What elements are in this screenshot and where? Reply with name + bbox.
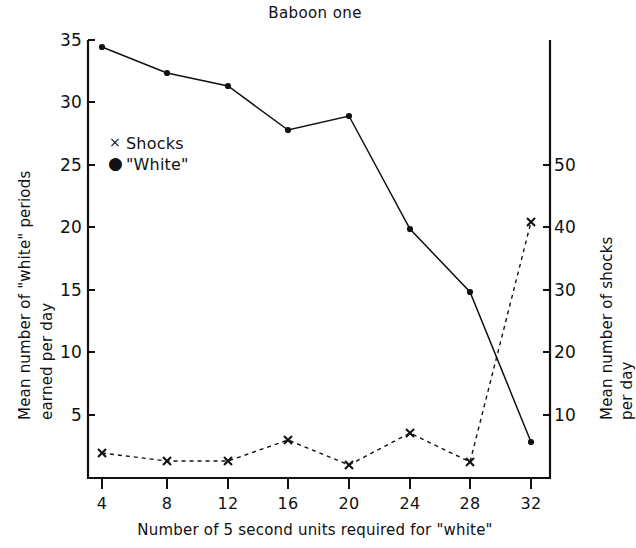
legend-label: "White" [126,155,189,174]
axis-frame [88,40,550,478]
data-point [99,44,105,50]
series-shocks-line [102,222,531,465]
x-tick-label: 20 [329,496,369,512]
data-point [467,289,473,295]
data-point [527,218,535,226]
y-tick-label: 30 [42,94,82,111]
x-tick-label: 4 [82,496,122,512]
legend-label: Shocks [126,134,184,153]
data-point [345,461,353,469]
y-tick-label: 35 [42,32,82,49]
y2-tick-label: 40 [554,219,594,236]
y-tick-label: 25 [42,157,82,174]
series-shocks-markers [98,218,535,469]
y-tick-label: 20 [42,219,82,236]
y2-tick-label: 30 [554,282,594,299]
x-axis-ticks [102,478,531,489]
data-point [284,436,292,444]
x-tick-label: 32 [511,496,551,512]
x-marker-icon: × [108,134,122,150]
y-axis-title-line1: Mean number of "white" periods [18,171,33,420]
y2-axis-title-line2: per day [620,361,635,420]
data-point [225,83,231,89]
x-tick-label: 24 [390,496,430,512]
data-point [528,439,534,445]
circle-marker-icon: ● [108,155,122,172]
y2-tick-label: 20 [554,344,594,361]
x-tick-label: 12 [208,496,248,512]
y-tick-label: 15 [42,282,82,299]
data-point [164,70,170,76]
x-axis-title: Number of 5 second units required for "w… [0,523,630,538]
x-tick-label: 8 [147,496,187,512]
y2-axis-title-line1: Mean number of shocks [600,236,615,420]
y2-tick-label: 10 [554,407,594,424]
y-axis-title-line2: earned per day [40,303,55,420]
data-point [163,457,171,465]
series-shocks [98,218,535,469]
chart-legend: × Shocks ● "White" [108,134,278,176]
series-white-markers [99,44,534,445]
data-point [285,127,291,133]
y2-tick-label: 50 [554,157,594,174]
data-point [407,226,413,232]
series-white [99,44,534,445]
x-tick-label: 28 [450,496,490,512]
data-point [346,113,352,119]
legend-item-white: ● "White" [108,155,278,176]
legend-item-shocks: × Shocks [108,134,278,155]
data-point [406,429,414,437]
x-tick-label: 16 [268,496,308,512]
series-white-line [102,47,531,442]
